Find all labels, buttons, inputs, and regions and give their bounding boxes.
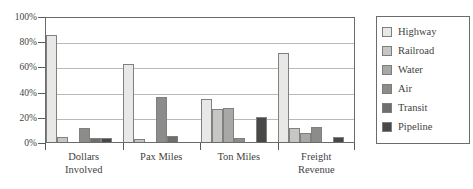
x-axis-ticks — [45, 143, 355, 150]
y-axis-tick-mark — [38, 143, 45, 144]
y-axis-tick-label: 60% — [20, 62, 37, 72]
y-axis-tick-mark — [38, 67, 45, 68]
bar — [167, 136, 178, 142]
legend-swatch-icon — [382, 65, 392, 75]
bar — [134, 139, 145, 142]
legend-item-label: Air — [398, 83, 412, 95]
bar — [46, 35, 57, 142]
bar — [79, 128, 90, 142]
bar — [156, 97, 167, 142]
bar-group — [123, 18, 189, 142]
x-axis-category-label-line: Ton Miles — [217, 150, 260, 163]
legend-swatch-icon — [382, 84, 392, 94]
legend-item-label: Highway — [398, 26, 437, 38]
y-axis-tick-mark — [38, 42, 45, 43]
y-axis-tick-label: 40% — [20, 88, 37, 98]
legend-item-air[interactable]: Air — [382, 79, 469, 98]
bar — [289, 128, 300, 142]
legend-swatch-icon — [382, 103, 392, 113]
legend-swatch-icon — [382, 46, 392, 56]
y-axis: 0%20%40%60%80%100% — [0, 0, 44, 189]
y-axis-tick-label: 0% — [24, 138, 37, 148]
bar — [234, 138, 245, 142]
y-axis-tick-label: 80% — [20, 37, 37, 47]
bar — [300, 133, 311, 142]
legend-item-water[interactable]: Water — [382, 60, 469, 79]
bar — [101, 138, 112, 142]
x-axis-category-label-line: Pax Miles — [140, 150, 182, 163]
bar — [311, 127, 322, 142]
x-axis-tick-mark — [278, 143, 279, 150]
bar-chart: 0%20%40%60%80%100% DollarsInvolvedPax Mi… — [0, 0, 473, 189]
y-axis-tick-label: 100% — [15, 12, 37, 22]
bars-layer — [46, 18, 354, 142]
bar — [57, 137, 68, 142]
x-axis-category-label: Ton Miles — [217, 150, 260, 163]
bar — [212, 109, 223, 142]
x-axis-category-label: FreightRevenue — [298, 150, 335, 176]
x-axis-labels: DollarsInvolvedPax MilesTon MilesFreight… — [45, 150, 355, 188]
bar-group — [278, 18, 344, 142]
bar — [223, 108, 234, 142]
x-axis-category-label: Pax Miles — [140, 150, 182, 163]
legend-item-label: Railroad — [398, 45, 434, 57]
y-axis-tick-mark — [38, 118, 45, 119]
legend-item-transit[interactable]: Transit — [382, 98, 469, 117]
legend-swatch-icon — [382, 122, 392, 132]
x-axis-tick-mark — [200, 143, 201, 150]
legend: HighwayRailroadWaterAirTransitPipeline — [376, 16, 470, 144]
bar — [256, 117, 267, 142]
bar — [123, 64, 134, 142]
legend-item-label: Pipeline — [398, 121, 432, 133]
bar-group — [201, 18, 267, 142]
legend-item-label: Water — [398, 64, 423, 76]
x-axis-category-label-line: Revenue — [298, 163, 335, 176]
x-axis-category-label-line: Dollars — [65, 150, 102, 163]
plot-area — [45, 17, 355, 143]
bar — [278, 53, 289, 142]
bar — [90, 138, 101, 142]
x-axis-category-label: DollarsInvolved — [65, 150, 102, 176]
legend-item-pipeline[interactable]: Pipeline — [382, 117, 469, 136]
legend-item-railroad[interactable]: Railroad — [382, 41, 469, 60]
bar — [201, 99, 212, 142]
y-axis-tick-mark — [38, 17, 45, 18]
bar-group — [46, 18, 112, 142]
x-axis-tick-mark — [354, 143, 355, 150]
x-axis-tick-mark — [123, 143, 124, 150]
x-axis-category-label-line: Freight — [298, 150, 335, 163]
legend-item-label: Transit — [398, 102, 427, 114]
bar — [333, 137, 344, 142]
legend-swatch-icon — [382, 27, 392, 37]
y-axis-tick-label: 20% — [20, 113, 37, 123]
y-axis-tick-mark — [38, 93, 45, 94]
x-axis-category-label-line: Involved — [65, 163, 102, 176]
x-axis-tick-mark — [45, 143, 46, 150]
legend-item-highway[interactable]: Highway — [382, 22, 469, 41]
